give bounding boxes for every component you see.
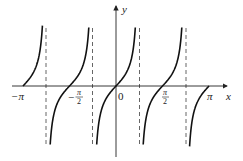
fraction-numerator: π xyxy=(163,88,168,97)
plot-area: y x 0 −π − π 2 π 2 π xyxy=(0,0,243,161)
y-axis-label: y xyxy=(121,3,127,15)
fraction-numerator: π xyxy=(77,88,82,97)
x-axis-label: x xyxy=(225,90,231,102)
tick-label-pi: π xyxy=(207,90,213,102)
tangent-graph: y x 0 −π − π 2 π 2 π xyxy=(0,0,243,161)
fraction-denominator: 2 xyxy=(77,97,81,106)
origin-label: 0 xyxy=(118,90,124,102)
tick-label-neg-pi: −π xyxy=(11,90,24,102)
tick-label-neg-half-pi: − π 2 xyxy=(68,88,83,106)
tick-label-half-pi: π 2 xyxy=(162,88,169,106)
fraction-denominator: 2 xyxy=(163,97,167,106)
minus-sign: − xyxy=(68,91,74,103)
